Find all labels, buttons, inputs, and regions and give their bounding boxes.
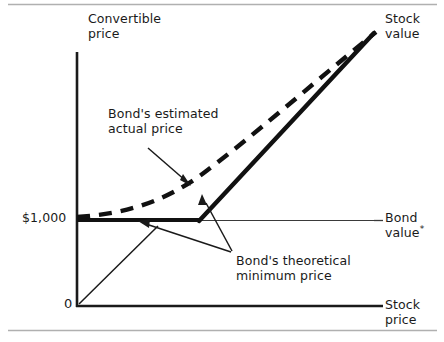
x-axis-title: Stock price [385,298,420,327]
origin-pointer-line [79,226,158,304]
stock-value-line [199,33,374,221]
annotation-estimated-actual-price: Bond's estimated actual price [108,107,219,136]
arrow-estimated-actual-price [148,148,191,186]
chart-canvas [0,0,444,342]
y-axis-title: Convertible price [88,12,161,41]
convertible-bond-price-chart: Convertible price Stock value $1,000 Bon… [0,0,444,342]
bond-value-label: Bond value* [385,211,424,240]
origin-label: 0 [64,297,72,312]
annotation-theoretical-minimum-price: Bond's theoretical minimum price [236,254,351,283]
y-tick-label-1000: $1,000 [22,211,66,226]
stock-value-label: Stock value [385,12,420,41]
bond-value-label-text: Bond value [385,210,420,240]
bond-value-footnote-marker: * [420,223,425,233]
